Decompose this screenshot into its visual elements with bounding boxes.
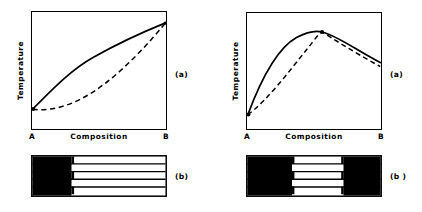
figure-root: Temperature Composition A B (a) (b) bbox=[0, 0, 422, 212]
black-zone-step-right-1-right bbox=[341, 157, 343, 164]
ingot-schematic-right bbox=[246, 155, 382, 197]
phase-diagram-left-curves bbox=[31, 11, 167, 130]
ingot-schematic-left-svg bbox=[31, 155, 167, 197]
solidus-curve-left bbox=[33, 23, 166, 110]
endpoint-node-b-left bbox=[164, 22, 167, 25]
part-label-a-right: (a) bbox=[390, 70, 403, 79]
black-zone-step-1-left bbox=[72, 157, 75, 164]
part-label-a-left: (a) bbox=[175, 70, 188, 79]
black-zone-step-2-left bbox=[72, 171, 75, 179]
black-zone-step-right-3-right bbox=[341, 187, 343, 195]
panel-group-left: Temperature Composition A B (a) (b) bbox=[0, 0, 211, 212]
black-zone-step-left-3-right bbox=[292, 187, 294, 195]
ingot-schematic-left bbox=[31, 155, 167, 197]
black-zone-step-right-2-right bbox=[341, 171, 343, 179]
y-axis-label-right: Temperature bbox=[229, 12, 347, 130]
black-zone-step-3-left bbox=[72, 187, 75, 195]
black-zone-step-left-1-right bbox=[292, 157, 294, 164]
black-zone-left bbox=[33, 157, 72, 196]
ingot-schematic-right-svg bbox=[246, 155, 382, 197]
phase-diagram-left bbox=[31, 11, 167, 130]
y-axis-label-left: Temperature bbox=[14, 11, 27, 130]
part-label-b-left: (b) bbox=[175, 172, 188, 181]
liquidus-curve-left bbox=[33, 23, 166, 109]
black-zone-left-end-right bbox=[248, 157, 293, 196]
black-zone-step-left-2-right bbox=[292, 171, 294, 179]
x-axis-endpoint-a-right: A bbox=[244, 132, 250, 141]
endpoint-node-a-left bbox=[31, 107, 35, 111]
x-axis-endpoint-b-left: B bbox=[163, 132, 169, 141]
x-axis-label-right: Composition bbox=[246, 132, 382, 141]
x-axis-endpoint-b-right: B bbox=[378, 132, 384, 141]
x-axis-endpoint-a-left: A bbox=[29, 132, 35, 141]
panel-group-right: Temperature Composition A B (a) bbox=[211, 0, 422, 212]
part-label-b-right: (b ) bbox=[390, 172, 406, 181]
x-axis-label-left: Composition bbox=[31, 132, 167, 141]
black-zone-right-end-right bbox=[344, 157, 381, 196]
